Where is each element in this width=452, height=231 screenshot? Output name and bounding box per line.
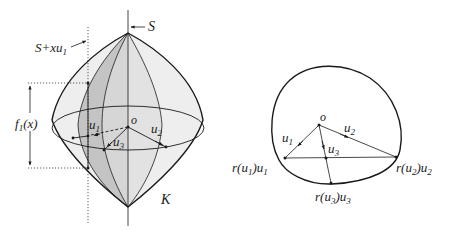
left-figure-convex-body: S S+xu1 f1(x) o u1 u2 u3 K xyxy=(14,10,204,226)
right-figure-cross-section: o u1 u2 u3 r(u1)u1 r(u2)u2 r(u3)u3 xyxy=(232,66,432,206)
u3-boundary-point xyxy=(103,149,106,152)
point-ru2u2 xyxy=(395,156,398,159)
label-u3-right: u3 xyxy=(328,141,340,158)
u1-boundary-point xyxy=(72,137,75,140)
point-ru3u3 xyxy=(330,182,333,185)
label-S-shift: S+xu1 xyxy=(35,40,67,57)
chord-u1-u2 xyxy=(285,157,396,158)
u1-arrow-right xyxy=(298,141,303,146)
label-K: K xyxy=(160,192,171,207)
u1-intersect-point xyxy=(87,135,90,138)
label-u2-right: u2 xyxy=(344,120,356,137)
label-u1-right: u1 xyxy=(282,130,293,147)
point-chord-intersection xyxy=(325,157,328,160)
label-ru3u3: r(u3)u3 xyxy=(315,189,351,206)
label-ru1u1: r(u1)u1 xyxy=(232,160,268,177)
point-ru1u1 xyxy=(284,157,287,160)
label-o-left: o xyxy=(131,113,137,127)
figure-canvas: S S+xu1 f1(x) o u1 u2 u3 K o u1 u2 u3 r(… xyxy=(0,0,452,231)
label-f1x: f1(x) xyxy=(15,116,38,133)
u2-boundary-point xyxy=(165,146,168,149)
u3-arrow-right xyxy=(322,141,324,149)
S-shift-pointer-arrow xyxy=(71,41,86,47)
origin-point xyxy=(127,126,130,129)
label-S: S xyxy=(148,19,155,34)
label-ru2u2: r(u2)u2 xyxy=(396,160,432,177)
oval-boundary xyxy=(272,66,401,184)
label-o-right: o xyxy=(320,110,326,124)
